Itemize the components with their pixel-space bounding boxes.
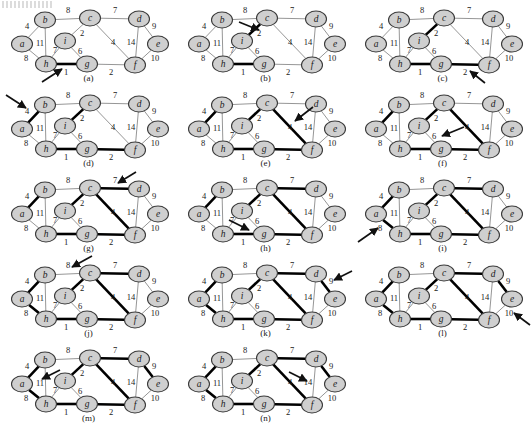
graph-node-h: h (36, 311, 57, 327)
graph-node-d: d (306, 351, 327, 367)
node-label-b: b (220, 15, 225, 25)
graph-node-e: e (502, 291, 523, 307)
edge-weight-ig: 6 (255, 216, 259, 226)
graph-node-h: h (390, 141, 411, 157)
graph-node-d: d (129, 181, 150, 197)
edge-weight-ef: 10 (505, 223, 514, 233)
node-label-d: d (314, 269, 319, 279)
edge-weight-ab: 4 (202, 361, 207, 371)
graph-node-b: b (389, 97, 410, 113)
node-label-a: a (197, 379, 202, 389)
graph-node-c: c (257, 350, 278, 366)
node-label-g: g (85, 59, 90, 69)
graph-node-d: d (483, 11, 504, 27)
edge-weight-ef: 10 (328, 53, 337, 63)
graph-node-h: h (390, 226, 411, 242)
edge-weight-df: 14 (127, 122, 136, 132)
edge-weight-cf: 4 (288, 37, 293, 47)
node-label-i: i (64, 36, 67, 46)
edge-weight-ah: 8 (378, 138, 382, 148)
mst-step-panel-f: 12244677889101114abcdefghi(f) (354, 85, 531, 170)
graph-node-e: e (325, 206, 346, 222)
edge-bc (409, 18, 433, 19)
edge-cd-selected (101, 188, 129, 189)
edge-ah-selected (29, 390, 39, 398)
node-label-g: g (85, 399, 90, 409)
edge-weight-cd: 7 (290, 90, 294, 100)
node-label-b: b (220, 100, 225, 110)
edge-bc (55, 188, 79, 189)
edge-bh (222, 283, 223, 311)
node-label-g: g (262, 144, 267, 154)
graph-node-a: a (12, 376, 33, 392)
edge-gf-selected (98, 404, 125, 405)
edge-gf (275, 64, 302, 65)
graph-node-f: f (479, 227, 500, 243)
edge-weight-cd: 7 (467, 90, 471, 100)
node-label-e: e (333, 379, 337, 389)
edge-weight-ig: 6 (78, 386, 82, 396)
graph-node-f: f (479, 57, 500, 73)
edge-weight-bc: 8 (420, 90, 424, 100)
edge-ah-selected (206, 305, 216, 313)
node-label-d: d (491, 14, 496, 24)
node-label-e: e (510, 294, 514, 304)
graph-node-h: h (36, 56, 57, 72)
graph-node-e: e (148, 36, 169, 52)
panel-caption-a: (a) (84, 73, 94, 83)
node-label-g: g (85, 314, 90, 324)
graph-node-f: f (302, 397, 323, 413)
mst-step-panel-n: 12244677889101114abcdefghi(n) (177, 340, 354, 425)
node-label-a: a (197, 39, 202, 49)
panel-caption-e: (e) (261, 158, 271, 168)
edge-weight-ic: 2 (257, 113, 261, 123)
edge-cd-selected (455, 188, 483, 189)
graph-node-b: b (212, 97, 233, 113)
edge-weight-de: 9 (329, 191, 333, 201)
edge-weight-ef: 10 (151, 138, 160, 148)
node-label-e: e (510, 124, 514, 134)
edge-ab-selected (382, 281, 393, 292)
edge-weight-gf: 2 (286, 152, 290, 162)
graph-node-f: f (125, 57, 146, 73)
node-label-e: e (333, 124, 337, 134)
edge-weight-cd: 7 (113, 5, 117, 15)
node-label-a: a (20, 39, 25, 49)
graph-node-d: d (129, 11, 150, 27)
edge-df (313, 112, 316, 142)
edge-ab-selected (28, 111, 39, 122)
graph-node-g: g (254, 141, 275, 157)
edge-weight-gf: 2 (286, 322, 290, 332)
edge-df (313, 367, 316, 397)
panel-caption-i: (i) (438, 243, 447, 253)
graph-node-f: f (125, 397, 146, 413)
edge-weight-ab: 4 (379, 191, 384, 201)
graph-node-a: a (366, 206, 387, 222)
edge-weight-ah: 8 (24, 53, 28, 63)
edge-weight-df: 14 (127, 377, 136, 387)
graph-node-g: g (254, 311, 275, 327)
edge-ab-selected (28, 366, 39, 377)
graph-node-f: f (302, 227, 323, 243)
edge-weight-cd: 7 (290, 5, 294, 15)
edge-weight-bc: 8 (420, 175, 424, 185)
graph-node-h: h (390, 56, 411, 72)
node-label-i: i (64, 291, 67, 301)
edge-gf-selected (275, 149, 302, 150)
mst-step-panel-m: 12244677889101114abcdefghi(m) (0, 340, 177, 425)
graph-node-a: a (12, 121, 33, 137)
graph-node-c: c (80, 180, 101, 196)
edge-ab-selected (205, 366, 216, 377)
graph-node-e: e (502, 121, 523, 137)
edge-weight-de: 9 (506, 21, 510, 31)
graph-node-c: c (434, 180, 455, 196)
edge-weight-ab: 4 (379, 21, 384, 31)
node-label-a: a (197, 124, 202, 134)
edge-weight-ic: 2 (257, 283, 261, 293)
edge-weight-hg: 1 (241, 237, 245, 247)
edge-weight-ig: 6 (255, 301, 259, 311)
edge-weight-ef: 10 (328, 393, 337, 403)
panel-caption-l: (l) (438, 328, 447, 338)
edge-weight-gf: 2 (109, 322, 113, 332)
graph-node-d: d (306, 181, 327, 197)
